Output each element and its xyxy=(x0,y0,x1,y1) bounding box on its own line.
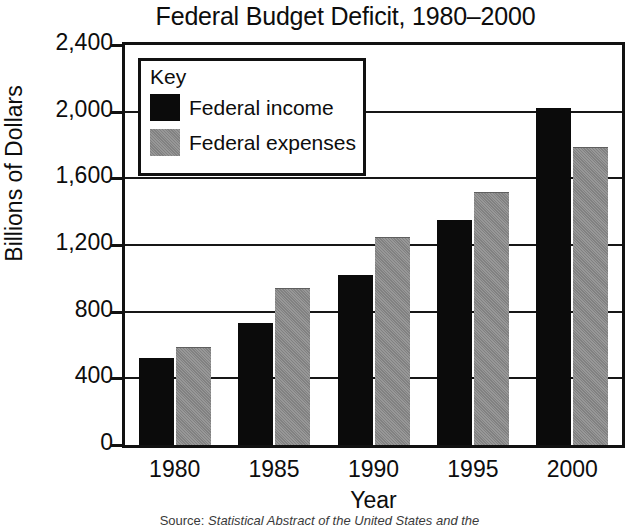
bar-1995-expenses xyxy=(474,192,509,445)
y-tick-label: 800 xyxy=(0,296,113,323)
legend-swatch-federal-expenses xyxy=(150,129,180,156)
chart-figure: Federal Budget Deficit, 1980–2000 Billio… xyxy=(0,0,639,530)
x-tick-label-2000: 2000 xyxy=(512,456,632,483)
bar-1985-expenses xyxy=(275,288,310,445)
bar-1980-income xyxy=(139,358,174,445)
legend-label-federal-income: Federal income xyxy=(189,96,334,120)
source-text: Statistical Abstract of the United State… xyxy=(208,513,479,528)
legend-item-federal-expenses: Federal expenses xyxy=(150,125,363,160)
y-tick-label: 2,000 xyxy=(0,96,113,123)
bar-1985-income xyxy=(238,323,273,446)
y-tick-label: 1,200 xyxy=(0,229,113,256)
x-axis-title: Year xyxy=(122,487,625,514)
plot-area: Key Federal income Federal expenses xyxy=(122,42,625,448)
bar-1990-income xyxy=(338,275,373,445)
y-tick-label: 0 xyxy=(0,429,113,456)
y-tick-label: 400 xyxy=(0,362,113,389)
bar-1980-expenses xyxy=(176,347,211,445)
legend-label-federal-expenses: Federal expenses xyxy=(189,131,356,155)
y-tick-label: 2,400 xyxy=(0,29,113,56)
source-note: Source: Statistical Abstract of the Unit… xyxy=(0,513,639,528)
legend-swatch-federal-income xyxy=(150,94,180,121)
legend-title: Key xyxy=(150,65,363,89)
bar-2000-expenses xyxy=(573,147,608,445)
chart-legend: Key Federal income Federal expenses xyxy=(138,58,366,176)
bar-2000-income xyxy=(536,108,571,446)
chart-title: Federal Budget Deficit, 1980–2000 xyxy=(0,2,639,31)
source-prefix: Source: xyxy=(160,513,205,528)
bar-1990-expenses xyxy=(375,237,410,445)
legend-item-federal-income: Federal income xyxy=(150,90,363,125)
y-tick-label: 1,600 xyxy=(0,162,113,189)
bar-1995-income xyxy=(437,220,472,445)
